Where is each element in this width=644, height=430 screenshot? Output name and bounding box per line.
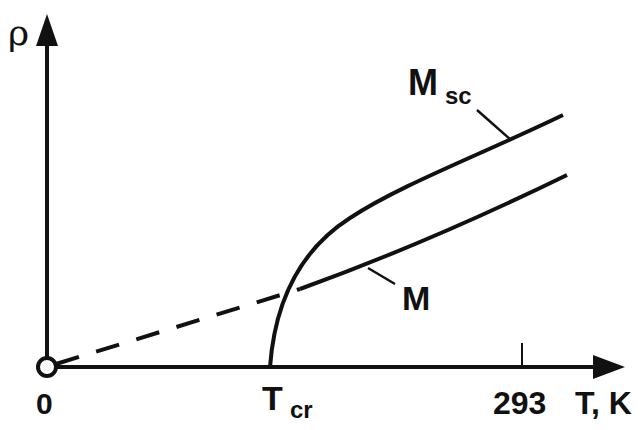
- y-axis-label: ρ: [8, 12, 29, 53]
- x-tick-label-tcr: T: [262, 379, 283, 417]
- x-tick-label-tcr-sub: cr: [290, 396, 313, 423]
- y-axis-arrow-icon: [36, 14, 58, 46]
- x-axis-arrow-icon: [593, 355, 625, 379]
- m-leader-line: [368, 268, 395, 284]
- x-tick-label-0: 0: [36, 387, 53, 420]
- series-m-dashed-line: [56, 289, 300, 364]
- resistivity-diagram: ρ 0 T cr 293 T, K M sc M: [0, 0, 644, 430]
- msc-leader-line: [477, 110, 511, 140]
- series-m-label: M: [402, 279, 430, 317]
- series-m-solid-line: [300, 175, 567, 289]
- origin-marker: [38, 358, 56, 376]
- series-msc-line: [270, 115, 563, 367]
- x-axis-label: T, K: [575, 385, 632, 421]
- series-msc-label-sub: sc: [445, 82, 472, 109]
- x-tick-label-293: 293: [493, 385, 546, 421]
- series-msc-label: M: [408, 62, 438, 103]
